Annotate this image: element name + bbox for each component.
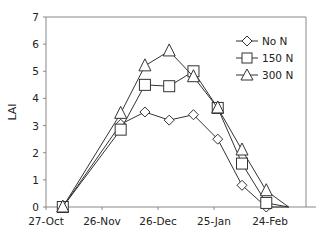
y-tick-label: 5	[32, 65, 39, 77]
legend-item-150-n: 150 N	[236, 52, 293, 64]
y-tick-label: 3	[32, 120, 39, 132]
x-tick-label: 25-Jan	[197, 215, 231, 227]
triangle-marker	[163, 44, 175, 56]
lai-chart: 01234567 27-Oct26-Nov26-Dec25-Jan24-Feb …	[0, 0, 326, 238]
triangle-marker	[236, 143, 248, 155]
square-marker	[115, 124, 126, 135]
y-tick-label: 2	[32, 147, 39, 159]
x-tick-label: 27-Oct	[28, 215, 64, 227]
legend: No N 150 N 300 N	[236, 35, 293, 81]
square-marker	[261, 197, 272, 208]
y-tick-label: 7	[32, 11, 39, 23]
triangle-marker	[115, 106, 127, 118]
x-tick-label: 24-Feb	[252, 215, 288, 227]
diamond-icon	[242, 36, 252, 46]
y-tick-label: 4	[32, 92, 39, 104]
square-marker	[139, 79, 150, 90]
y-tick-label: 0	[32, 201, 39, 213]
legend-label: 150 N	[262, 52, 293, 64]
square-marker	[164, 81, 175, 92]
triangle-marker	[139, 59, 151, 71]
x-tick-label: 26-Nov	[83, 215, 121, 227]
y-tick-label: 6	[32, 38, 39, 50]
diamond-marker	[164, 115, 174, 125]
square-icon	[242, 53, 252, 63]
y-tick-label: 1	[32, 174, 39, 186]
legend-item-300-n: 300 N	[236, 69, 293, 81]
y-ticks: 01234567	[32, 11, 46, 213]
triangle-marker	[260, 184, 272, 196]
x-tick-label: 26-Dec	[139, 215, 177, 227]
legend-item-no-n: No N	[236, 35, 287, 47]
series-300-n	[57, 44, 289, 212]
series-group	[57, 44, 289, 213]
diamond-marker	[140, 107, 150, 117]
legend-label: 300 N	[262, 69, 293, 81]
series-150-n	[57, 66, 288, 213]
legend-label: No N	[262, 35, 287, 47]
square-marker	[237, 158, 248, 169]
y-axis-label: LAI	[6, 103, 19, 120]
